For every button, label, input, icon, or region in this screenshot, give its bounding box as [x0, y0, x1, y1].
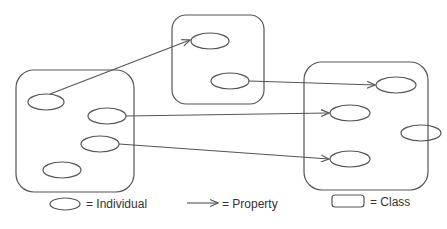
individual-m2 [211, 73, 249, 89]
legend: = Individual = Property = Class [50, 195, 410, 211]
legend-individual-label: = Individual [86, 197, 147, 211]
property-arrow-m2-r1 [249, 81, 375, 85]
class-box-middle [172, 15, 264, 104]
legend-class-label: = Class [370, 195, 410, 209]
legend-property-label: = Property [222, 197, 278, 211]
individual-l1 [28, 94, 64, 110]
individual-l3 [81, 136, 119, 152]
property-arrow-l2-r2 [126, 113, 329, 116]
individual-l4 [43, 162, 81, 178]
individual-r4 [330, 151, 370, 167]
individual-r2 [330, 105, 370, 121]
individual-m1 [191, 33, 229, 49]
property-arrow-l1-m1 [50, 40, 190, 94]
class-box-left [16, 70, 134, 192]
legend-class-icon [332, 195, 364, 207]
property-arrow-l3-r4 [119, 144, 329, 159]
legend-individual-icon [50, 198, 80, 210]
ontology-diagram: = Individual = Property = Class [0, 0, 447, 229]
individual-r1 [376, 77, 416, 93]
individual-l2 [88, 108, 126, 124]
individual-r3 [401, 125, 441, 141]
